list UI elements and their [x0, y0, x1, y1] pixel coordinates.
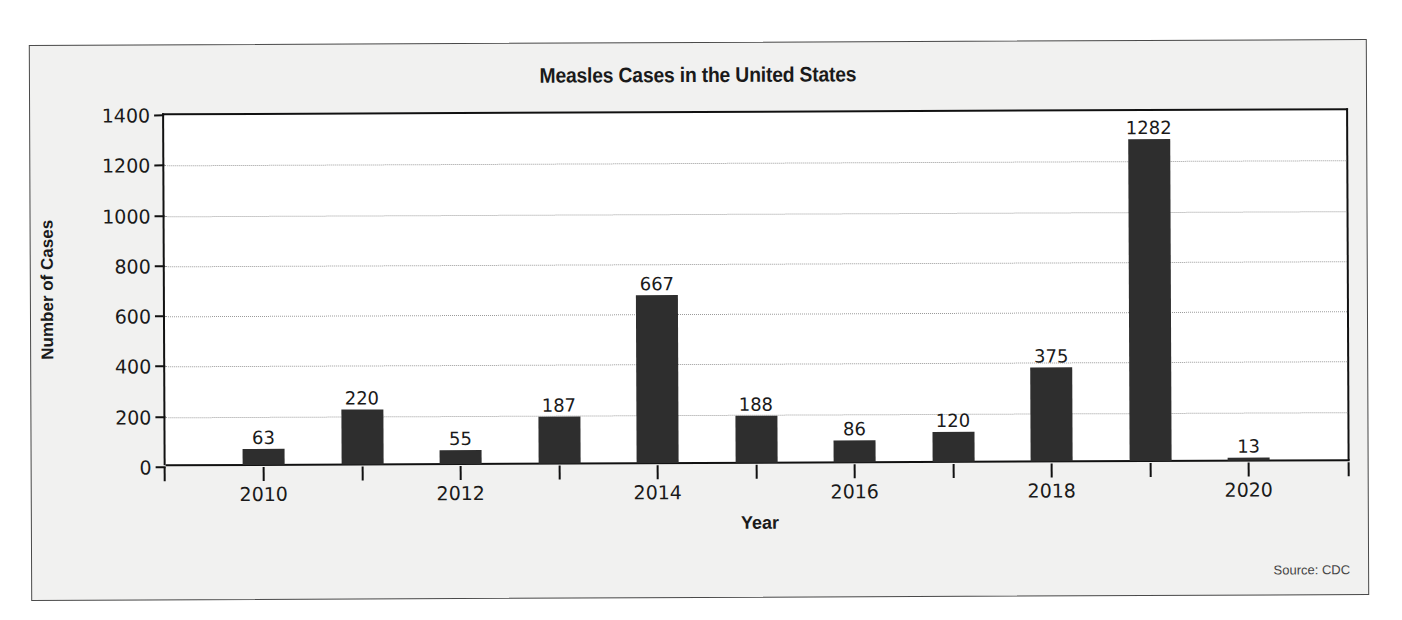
bar-2010 [243, 449, 285, 465]
bar-2015 [735, 415, 777, 462]
bar-value-label: 63 [223, 429, 303, 447]
y-tick-label: 600 [81, 307, 151, 327]
y-tick-label: 1000 [80, 206, 150, 226]
x-tick [558, 466, 560, 480]
y-tick-label: 200 [81, 407, 151, 427]
bar-2013 [538, 417, 580, 464]
bar-value-label: 86 [814, 421, 894, 439]
y-axis-title: Number of Cases [38, 220, 59, 360]
x-tick-label: 2010 [224, 483, 304, 505]
bar-2016 [834, 441, 876, 463]
y-tick [155, 215, 165, 217]
y-tick-label: 1400 [80, 105, 150, 125]
x-tick [1149, 463, 1151, 477]
bar-2011 [341, 409, 383, 464]
x-tick-label: 2018 [1012, 479, 1092, 501]
bar-2017 [932, 432, 974, 462]
y-tick-label: 1200 [80, 156, 150, 176]
bar-2014 [636, 295, 679, 463]
x-tick [361, 466, 363, 480]
y-tick-label: 800 [81, 256, 151, 276]
bar-value-label: 55 [420, 430, 500, 448]
x-tick [952, 464, 954, 478]
bar-2019 [1128, 139, 1171, 462]
x-tick [460, 466, 462, 480]
x-tick [854, 464, 856, 478]
y-tick [155, 265, 165, 267]
y-tick [155, 315, 165, 317]
y-tick [155, 416, 165, 418]
x-axis-title: Year [32, 510, 1368, 537]
y-tick [155, 366, 165, 368]
bar-value-label: 220 [322, 389, 402, 407]
bar-2012 [440, 450, 482, 464]
source-note: Source: CDC [1273, 562, 1350, 577]
bar-2018 [1030, 367, 1072, 461]
y-tick [154, 114, 164, 116]
bar-value-label: 187 [519, 396, 599, 414]
bar-2020 [1228, 457, 1270, 460]
bar-value-label: 375 [1011, 347, 1091, 365]
chart-title: Measles Cases in the United States [83, 60, 1312, 89]
bar-value-label: 120 [913, 412, 993, 430]
x-tick [263, 467, 265, 481]
x-tick [1248, 463, 1250, 477]
y-tick [154, 165, 164, 167]
x-tick-label: 2016 [815, 480, 895, 502]
x-tick [755, 465, 757, 479]
bar-value-label: 667 [617, 275, 697, 293]
x-tick-label: 2014 [618, 481, 698, 503]
x-tick [657, 465, 659, 479]
bar-value-label: 13 [1209, 437, 1289, 455]
plot-area: 0200400600800100012001400632010220552012… [162, 108, 1350, 465]
x-tick-label: 2012 [421, 482, 501, 504]
x-tick-end [1348, 462, 1350, 476]
chart-card: Measles Cases in the United States Numbe… [29, 39, 1369, 601]
bar-value-label: 1282 [1109, 119, 1189, 137]
x-tick-origin [164, 467, 166, 481]
x-tick [1051, 463, 1053, 477]
x-tick-label: 2020 [1209, 478, 1289, 500]
y-tick-label: 400 [81, 357, 151, 377]
y-tick-label: 0 [82, 457, 152, 477]
bar-value-label: 188 [716, 395, 796, 413]
